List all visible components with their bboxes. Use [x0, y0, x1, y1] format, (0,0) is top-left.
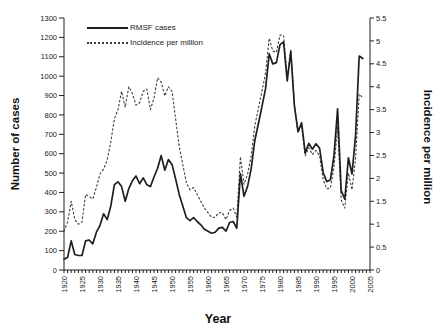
legend-label: RMSF cases	[130, 23, 176, 32]
y-left-tick-label: 400	[44, 188, 57, 197]
y-left-tick-label: 600	[44, 149, 57, 158]
x-tick-label: 1965	[222, 276, 231, 293]
y-left-tick-label: 700	[44, 130, 57, 139]
x-tick-label: 1935	[114, 276, 123, 293]
y-right-tick-label: 3.5	[376, 105, 386, 114]
y-left-tick-label: 900	[44, 91, 57, 100]
y-right-tick-label: 0	[376, 266, 380, 275]
y-left-tick-label: 0	[53, 266, 57, 275]
solid-line-sample	[87, 27, 128, 29]
rmsf-chart-figure: 0100200300400500600700800900100011001200…	[0, 0, 442, 336]
x-tick-label: 2005	[366, 276, 375, 293]
x-tick-label: 1990	[312, 276, 321, 293]
x-tick-label: 1975	[258, 276, 267, 293]
y-right-tick-label: 5	[376, 37, 380, 46]
legend-item-incidence: Incidence per million	[87, 37, 203, 48]
y-left-tick-label: 300	[44, 207, 57, 216]
x-tick-label: 1920	[60, 276, 69, 293]
y-left-tick-label: 1100	[41, 52, 57, 61]
y-left-tick-label: 800	[44, 111, 57, 120]
y-right-tick-label: 1	[376, 220, 380, 229]
y-right-tick-label: 1.5	[376, 197, 386, 206]
legend-label: Incidence per million	[130, 38, 203, 47]
x-tick-label: 1960	[204, 276, 213, 293]
y-left-tick-label: 1000	[40, 72, 57, 81]
y-left-tick-label: 1300	[40, 14, 57, 23]
y-right-tick-label: 5.5	[376, 14, 386, 23]
y-axis-title-right: Incidence per million	[422, 90, 434, 204]
x-axis-title: Year	[205, 312, 231, 326]
y-right-tick-label: 2.5	[376, 151, 386, 160]
y-left-tick-label: 1200	[40, 33, 57, 42]
chart-canvas: 0100200300400500600700800900100011001200…	[0, 0, 442, 336]
x-tick-label: 1945	[150, 276, 159, 293]
y-left-tick-label: 500	[44, 169, 57, 178]
x-tick-label: 1980	[276, 276, 285, 293]
dotted-line-sample	[87, 42, 128, 44]
y-right-tick-label: 4	[376, 82, 380, 91]
x-tick-label: 1930	[96, 276, 105, 293]
series-incidence-line	[64, 35, 363, 231]
legend-item-rmsf-cases: RMSF cases	[87, 22, 203, 33]
x-tick-label: 1950	[168, 276, 177, 293]
x-tick-label: 1995	[330, 276, 339, 293]
y-left-tick-label: 100	[44, 246, 57, 255]
y-right-tick-label: 0.5	[376, 243, 386, 252]
x-tick-label: 1970	[240, 276, 249, 293]
x-tick-label: 1955	[186, 276, 195, 293]
y-axis-title-left: Number of cases	[9, 98, 21, 191]
chart-legend: RMSF cases Incidence per million	[87, 22, 203, 48]
x-tick-label: 1985	[294, 276, 303, 293]
y-right-tick-label: 3	[376, 128, 380, 137]
y-right-tick-label: 4.5	[376, 59, 386, 68]
y-right-tick-label: 2	[376, 174, 380, 183]
x-tick-label: 1940	[132, 276, 141, 293]
x-tick-label: 1925	[78, 276, 87, 293]
x-tick-label: 2000	[348, 276, 357, 293]
y-left-tick-label: 200	[44, 227, 57, 236]
